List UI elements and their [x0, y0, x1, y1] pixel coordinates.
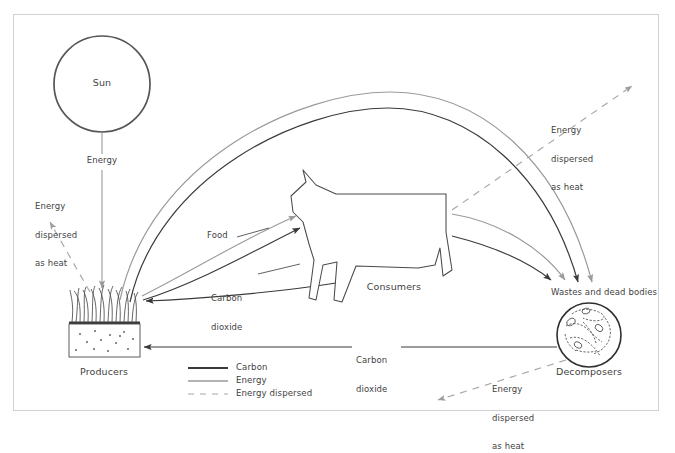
flow-consumers-heat-dashed: [452, 86, 632, 210]
carbon-dioxide-decomposers-label: Carbon dioxide: [356, 337, 387, 413]
consumers-label: Consumers: [367, 282, 421, 293]
wastes-label: Wastes and dead bodies: [551, 288, 657, 298]
carbon-dioxide-consumers-leader: [258, 264, 300, 274]
heat-decomposers-label: Energy dispersed as heat: [492, 366, 534, 453]
legend-label-energy: Energy: [236, 376, 267, 386]
producers-soil-box: [69, 324, 140, 357]
carbon-dioxide-consumers-label: Carbon dioxide: [211, 275, 242, 351]
sun-label: Sun: [93, 78, 111, 89]
heat-consumers-label: Energy dispersed as heat: [551, 107, 593, 212]
flow-consumers-to-wastes-carbon: [452, 236, 551, 280]
legend-label-carbon: Carbon: [236, 363, 268, 373]
decomposers-label: Decomposers: [556, 367, 622, 378]
food-leader-line: [237, 228, 269, 237]
producers-label: Producers: [80, 367, 128, 378]
energy-from-sun-label: Energy: [87, 156, 117, 166]
legend-label-energy-dispersed: Energy dispersed: [236, 389, 312, 399]
producers-grass: [70, 285, 138, 322]
flow-consumers-to-wastes-energy: [452, 214, 565, 280]
heat-producers-label: Energy dispersed as heat: [35, 183, 77, 288]
food-label: Food: [207, 231, 228, 241]
